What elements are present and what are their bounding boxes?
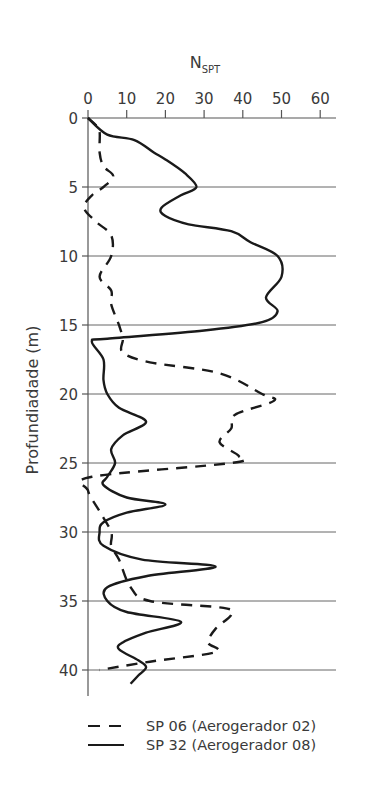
y-axis-ticks: 0510152025303540: [59, 110, 88, 680]
y-tick-label: 35: [59, 593, 78, 611]
y-tick-label: 5: [68, 179, 78, 197]
y-tick-label: 15: [59, 317, 78, 335]
solid-line-icon: [86, 740, 126, 750]
y-tick-label: 10: [59, 248, 78, 266]
x-tick-label: 50: [272, 90, 291, 108]
y-tick-label: 30: [59, 524, 78, 542]
x-axis-title: NSPT: [190, 53, 221, 75]
gridlines: [88, 187, 336, 670]
y-axis-title: Profundiadade (m): [23, 326, 42, 475]
x-axis-ticks: 0102030405060: [83, 90, 330, 118]
series-sp32-solid-line: [88, 118, 282, 684]
x-axis-title-subscript: SPT: [202, 64, 221, 75]
svg-text:NSPT: NSPT: [190, 53, 221, 75]
dashed-line-icon: [86, 721, 126, 731]
x-tick-label: 40: [233, 90, 252, 108]
legend: SP 06 (Aerogerador 02) SP 32 (Aerogerado…: [86, 716, 316, 754]
legend-item-sp32: SP 32 (Aerogerador 08): [86, 735, 316, 754]
x-tick-label: 10: [117, 90, 136, 108]
y-tick-label: 40: [59, 662, 78, 680]
x-tick-label: 0: [83, 90, 93, 108]
y-tick-label: 20: [59, 386, 78, 404]
y-tick-label: 25: [59, 455, 78, 473]
x-tick-label: 20: [156, 90, 175, 108]
legend-label: SP 32 (Aerogerador 08): [146, 737, 316, 753]
legend-label: SP 06 (Aerogerador 02): [146, 718, 316, 734]
x-axis-title-main: N: [190, 53, 202, 72]
nspt-depth-chart: NSPT 0102030405060 0510152025303540 Prof…: [0, 0, 386, 710]
data-series: [80, 118, 283, 684]
x-tick-label: 30: [195, 90, 214, 108]
legend-item-sp06: SP 06 (Aerogerador 02): [86, 716, 316, 735]
x-tick-label: 60: [311, 90, 330, 108]
y-tick-label: 0: [68, 110, 78, 128]
